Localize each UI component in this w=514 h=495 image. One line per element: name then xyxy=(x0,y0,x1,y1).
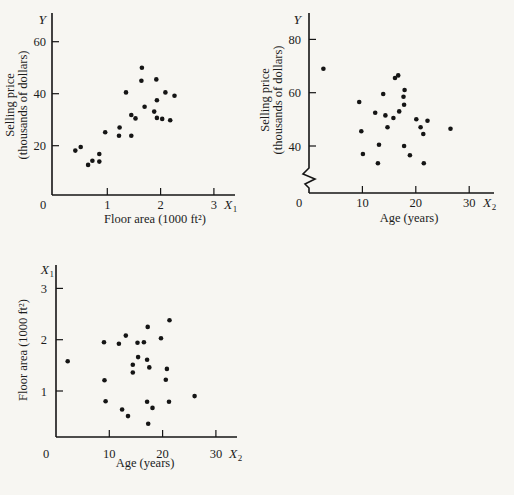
data-point xyxy=(192,394,197,399)
y-axis-tick-label: 40 xyxy=(289,140,302,154)
data-point xyxy=(421,132,426,137)
y-axis-tick-label: 2 xyxy=(41,333,47,347)
x-axis-title: Floor area (1000 ft²) xyxy=(104,212,206,226)
data-point xyxy=(165,367,170,372)
data-point xyxy=(155,98,160,103)
data-point xyxy=(168,118,173,123)
x-axis-tick-label: 2 xyxy=(157,198,163,212)
data-point xyxy=(86,163,91,168)
data-point xyxy=(402,144,407,149)
data-point xyxy=(396,73,401,78)
data-point xyxy=(147,365,152,370)
origin-label: 0 xyxy=(40,198,46,212)
data-point xyxy=(163,90,168,95)
data-point xyxy=(126,414,131,419)
data-point xyxy=(397,109,402,114)
data-point xyxy=(383,113,388,118)
data-point xyxy=(448,126,453,131)
data-point xyxy=(131,370,136,375)
data-point xyxy=(131,363,136,368)
y-axis-tick-label: 60 xyxy=(289,86,302,100)
data-point xyxy=(167,400,172,405)
data-point xyxy=(142,340,147,345)
x-axis-tick-label: 20 xyxy=(410,196,423,210)
data-point xyxy=(73,148,78,153)
x-axis-tick-label: 30 xyxy=(463,196,476,210)
data-point xyxy=(160,117,165,122)
data-point xyxy=(139,78,144,83)
y-axis-title: Selling price xyxy=(3,73,17,137)
data-point xyxy=(422,161,427,166)
y-axis-variable-label: Y xyxy=(293,12,302,27)
data-point xyxy=(78,145,83,150)
data-point xyxy=(381,92,386,97)
data-point xyxy=(145,357,150,362)
data-point xyxy=(145,325,150,330)
data-point xyxy=(97,152,102,157)
data-point xyxy=(402,88,407,93)
data-point xyxy=(124,90,129,95)
data-point xyxy=(133,116,138,121)
data-point xyxy=(373,110,378,115)
y-axis-tick-label: 1 xyxy=(41,385,47,399)
data-point xyxy=(117,134,122,139)
data-point xyxy=(408,153,413,158)
data-point xyxy=(418,125,423,130)
scatter-plot-price-vs-floor-area: 1232040600X1YSelling price(thousands of … xyxy=(0,0,257,240)
data-point xyxy=(102,378,107,383)
y-axis-title: (thousands of dollars) xyxy=(271,45,285,154)
data-point xyxy=(129,113,134,118)
y-axis-title: (thousands of dollars) xyxy=(16,50,30,159)
y-axis-title: Selling price xyxy=(258,68,272,132)
data-point xyxy=(414,117,419,122)
data-point xyxy=(103,399,108,404)
data-point xyxy=(150,406,155,411)
data-point xyxy=(136,355,141,360)
y-axis-tick-label: 20 xyxy=(34,139,47,153)
y-axis-tick-label: 80 xyxy=(289,33,302,47)
data-point xyxy=(140,65,145,70)
y-axis-variable-label: Y xyxy=(38,12,47,27)
data-point xyxy=(401,94,406,99)
y-axis-variable-label: X1 xyxy=(40,262,54,279)
x-axis-tick-label: 30 xyxy=(210,447,223,461)
data-point xyxy=(155,116,160,121)
y-axis-tick-label: 60 xyxy=(34,35,47,49)
origin-label: 0 xyxy=(43,447,49,461)
scatter-plot-price-vs-age-canvas: 1020304060800X2YSelling price(thousands … xyxy=(257,0,514,240)
data-point xyxy=(361,152,366,157)
data-point xyxy=(152,109,157,114)
x-axis-tick-label: 10 xyxy=(356,196,369,210)
x-axis-title: Age (years) xyxy=(380,211,439,225)
data-point xyxy=(402,102,407,107)
data-point xyxy=(145,400,150,405)
data-point xyxy=(102,340,107,345)
y-axis-title: Floor area (1000 ft²) xyxy=(16,299,30,401)
x-axis-variable-label: X1 xyxy=(223,197,237,214)
y-axis-tick-label: 40 xyxy=(34,87,47,101)
data-point xyxy=(359,129,364,134)
data-point xyxy=(321,66,326,71)
data-point xyxy=(357,100,362,105)
x-axis-variable-label: X2 xyxy=(228,446,242,463)
scatter-plot-floor-area-vs-age: 1020301230X2X1Floor area (1000 ft²)Age (… xyxy=(0,240,285,495)
data-point xyxy=(142,104,147,109)
y-axis-tick-label: 3 xyxy=(41,282,47,296)
scanned-textbook-figure: 1232040600X1YSelling price(thousands of … xyxy=(0,0,514,495)
origin-label: 0 xyxy=(296,196,302,210)
data-point xyxy=(164,377,169,382)
x-axis-variable-label: X2 xyxy=(482,195,496,212)
data-point xyxy=(120,407,125,412)
data-point xyxy=(159,336,164,341)
data-point xyxy=(391,116,396,121)
data-point xyxy=(376,161,381,166)
data-point xyxy=(425,118,430,123)
data-point xyxy=(117,125,122,130)
data-point xyxy=(167,318,172,323)
data-point xyxy=(124,333,129,338)
data-point xyxy=(385,125,390,130)
data-point xyxy=(129,134,134,139)
data-point xyxy=(146,422,151,427)
data-point xyxy=(65,359,70,364)
data-point xyxy=(90,159,95,164)
